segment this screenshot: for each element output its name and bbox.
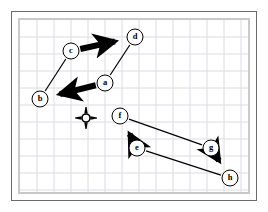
crosshair-spike (84, 107, 87, 114)
graph-node-e[interactable]: e (129, 140, 145, 156)
node-label-b: b (38, 93, 43, 103)
edge-b-c (45, 59, 66, 91)
graph-node-f[interactable]: f (112, 108, 128, 124)
edge-g-h (216, 156, 219, 161)
graph-node-d[interactable]: d (127, 29, 143, 45)
edge-c-d (80, 41, 115, 49)
graph-node-a[interactable]: a (97, 75, 113, 91)
figure-root: abcdefgh (0, 0, 268, 212)
crosshair-ring (82, 114, 90, 122)
crosshair-spike (84, 123, 87, 130)
node-label-c: c (69, 45, 73, 55)
node-label-h: h (228, 172, 233, 182)
node-label-d: d (133, 31, 138, 41)
edge-a-d (110, 45, 130, 75)
edge-a-b (60, 85, 96, 94)
nodes-group: abcdefgh (32, 29, 238, 186)
node-label-e: e (135, 142, 139, 152)
crosshair-target-icon (75, 107, 97, 129)
graph-node-b[interactable]: b (32, 91, 48, 107)
crosshair-spike (75, 116, 82, 119)
graph-node-g[interactable]: g (203, 140, 219, 156)
edge-e-f (130, 134, 133, 139)
graph-node-c[interactable]: c (63, 43, 79, 59)
node-label-f: f (119, 110, 122, 120)
crosshair-spike (91, 116, 98, 119)
graph-layer: abcdefgh (0, 0, 268, 212)
graph-node-h[interactable]: h (222, 170, 238, 186)
